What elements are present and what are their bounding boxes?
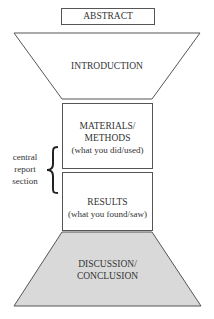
results-label: RESULTS	[62, 196, 153, 208]
central-text: central	[6, 151, 44, 163]
results-text: RESULTS (what you found/saw)	[62, 196, 153, 220]
materials-label: MATERIALS/	[62, 120, 153, 132]
central-report-section-label: central report section	[6, 151, 44, 187]
brace-icon	[47, 147, 58, 193]
introduction-label: INTRODUCTION	[14, 60, 200, 72]
report-text: report	[6, 163, 44, 175]
conclusion-label: CONCLUSION	[14, 270, 201, 282]
results-note: (what you found/saw)	[62, 208, 153, 220]
discussion-label: DISCUSSION/	[14, 258, 201, 270]
materials-methods-note: (what you did/used)	[62, 144, 153, 156]
methods-label: METHODS	[62, 132, 153, 144]
section-text: section	[6, 175, 44, 187]
abstract-label: ABSTRACT	[61, 10, 155, 22]
materials-methods-text: MATERIALS/ METHODS (what you did/used)	[62, 120, 153, 156]
discussion-text: DISCUSSION/ CONCLUSION	[14, 258, 201, 282]
